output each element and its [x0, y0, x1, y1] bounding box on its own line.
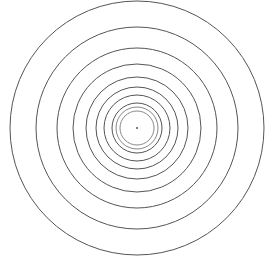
center-dot — [136, 127, 138, 129]
concentric-circles-diagram — [0, 0, 271, 257]
circles-svg — [0, 0, 271, 257]
